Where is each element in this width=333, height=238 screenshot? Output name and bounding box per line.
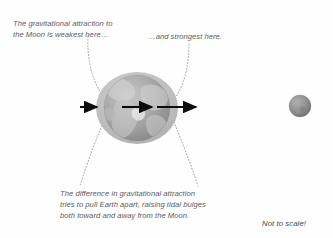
leader-weakest-line bbox=[88, 36, 104, 97]
leader-weakest-line-lower bbox=[80, 120, 104, 186]
tidal-force-diagram: The gravitational attraction to the Moon… bbox=[0, 0, 333, 238]
label-not-to-scale: Not to scale! bbox=[262, 218, 332, 229]
label-weakest-attraction: The gravitational attraction to the Moon… bbox=[13, 18, 163, 40]
label-strongest-attraction: …and strongest here. bbox=[148, 31, 288, 42]
label-tidal-bulge-explanation: The difference in gravitational attracti… bbox=[60, 188, 260, 222]
leader-strongest-line-lower bbox=[174, 122, 198, 186]
leader-strongest-line bbox=[175, 44, 189, 98]
moon-globe bbox=[289, 95, 311, 117]
